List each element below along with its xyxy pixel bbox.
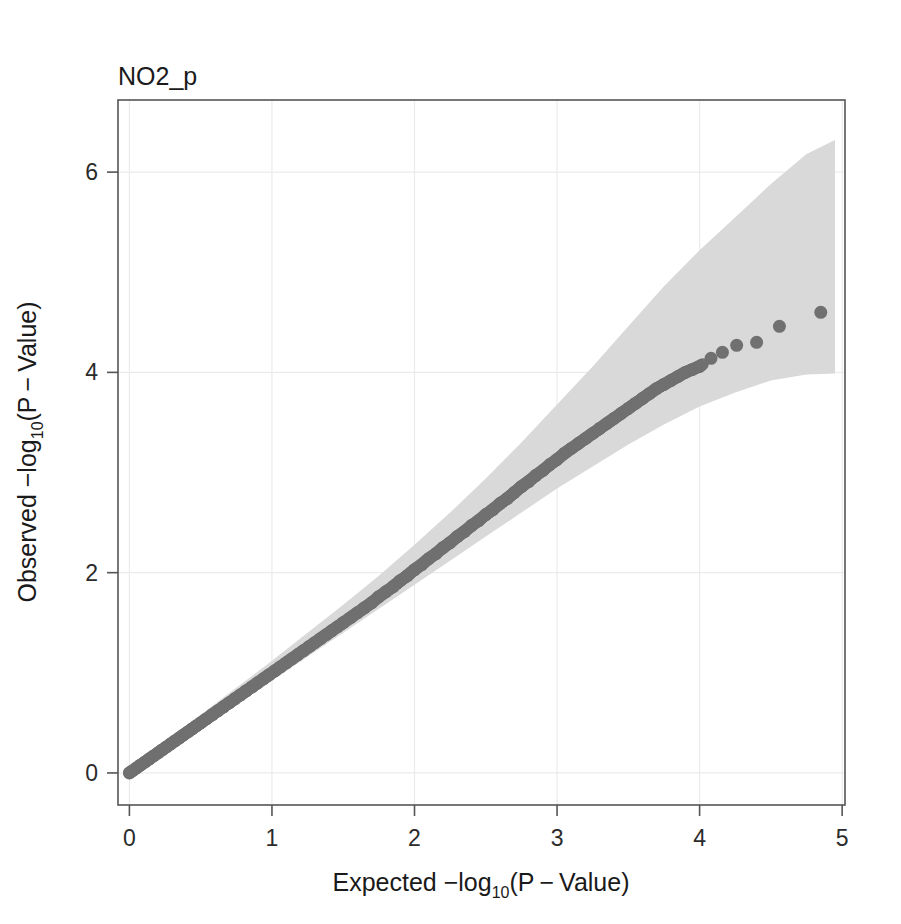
y-tick-label: 6 [85,159,98,185]
figure-background [0,0,901,924]
y-tick-label: 4 [85,359,98,385]
data-point [696,358,708,370]
y-tick-label: 0 [85,760,98,786]
x-tick-label: 0 [123,825,136,851]
data-point [814,306,827,319]
x-tick-label: 4 [693,825,706,851]
x-tick-label: 3 [551,825,564,851]
plot-canvas: NO2_p 012345 0246 Expected −log10(P − Va… [0,0,901,924]
qq-plot-figure: NO2_p 012345 0246 Expected −log10(P − Va… [0,0,901,924]
data-point [773,320,786,333]
page-title: NO2_p [118,62,197,90]
data-point [750,336,763,349]
x-tick-label: 5 [836,825,849,851]
x-tick-label: 1 [266,825,279,851]
data-point [716,346,729,359]
data-point [730,339,743,352]
y-tick-label: 2 [85,560,98,586]
x-tick-label: 2 [408,825,421,851]
